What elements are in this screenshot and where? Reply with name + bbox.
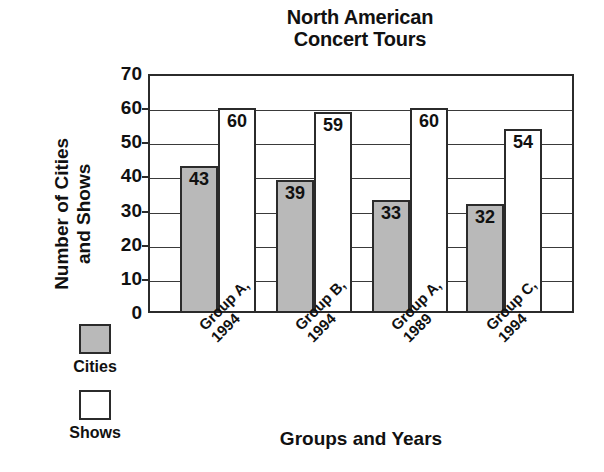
bar-value-cities-group-a-1989: 33 [374, 204, 408, 223]
bar-cities-group-b-1994[interactable]: 39 [276, 180, 314, 313]
legend-swatch-cities-icon [79, 324, 111, 354]
y-tick-label-0: 0 [98, 302, 142, 324]
y-tick-label-30: 30 [98, 200, 142, 222]
chart-title-line-1: North American [140, 6, 580, 28]
legend-label-cities: Cities [40, 358, 150, 376]
bar-value-shows-group-a-1989: 60 [412, 112, 446, 131]
y-tick-label-60: 60 [98, 97, 142, 119]
legend-entry-shows[interactable]: Shows [40, 390, 150, 442]
bar-cities-group-a-1994[interactable]: 43 [180, 166, 218, 313]
bar-value-cities-group-b-1994: 39 [278, 184, 312, 203]
legend-label-shows: Shows [40, 424, 150, 442]
legend-swatch-shows-icon [79, 390, 111, 420]
bar-value-cities-group-a-1994: 43 [182, 170, 216, 189]
chart-title: North American Concert Tours [140, 6, 580, 51]
bar-value-shows-group-b-1994: 59 [316, 116, 350, 135]
chart-title-line-2: Concert Tours [140, 28, 580, 50]
bar-value-cities-group-c-1994: 32 [468, 208, 502, 227]
bar-cities-group-c-1994[interactable]: 32 [466, 204, 504, 313]
bar-value-shows-group-c-1994: 54 [506, 133, 540, 152]
y-tick-label-10: 10 [98, 268, 142, 290]
y-tick-label-40: 40 [98, 165, 142, 187]
x-axis-title: Groups and Years [148, 428, 574, 450]
y-axis-title-line-1: Number of Cities [51, 89, 73, 339]
legend: Cities Shows [40, 324, 150, 456]
y-tick-label-50: 50 [98, 131, 142, 153]
bars-layer: 43 60 39 59 33 60 32 54 [148, 74, 574, 313]
y-tick-label-70: 70 [98, 63, 142, 85]
y-tick-label-20: 20 [98, 234, 142, 256]
bar-value-shows-group-a-1994: 60 [220, 112, 254, 131]
bar-cities-group-a-1989[interactable]: 33 [372, 200, 410, 313]
y-axis-tick-labels: 70 60 50 40 30 20 10 0 [92, 74, 142, 313]
y-axis-title: Number of Cities and Shows [51, 89, 95, 339]
legend-entry-cities[interactable]: Cities [40, 324, 150, 376]
